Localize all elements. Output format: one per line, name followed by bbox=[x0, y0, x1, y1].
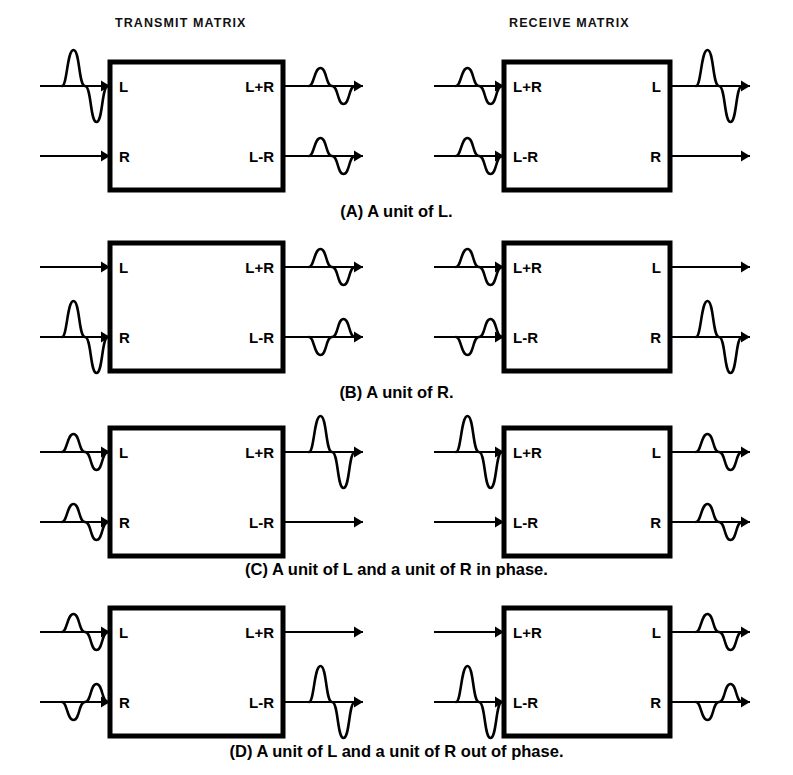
arrowhead-A-receive-output-r bbox=[741, 151, 750, 162]
port-label-receive-in-A-1: L-R bbox=[513, 148, 538, 165]
port-label-transmit-out-B-1: L-R bbox=[249, 329, 274, 346]
arrowhead-A-transmit-output-lminusr bbox=[354, 151, 363, 162]
port-label-transmit-out-B-0: L+R bbox=[245, 259, 274, 276]
port-label-transmit-in-D-1: R bbox=[119, 694, 130, 711]
arrowhead-C-transmit-output-lplusr bbox=[354, 447, 363, 458]
arrowhead-B-receive-output-r bbox=[741, 332, 750, 343]
port-label-transmit-out-C-0: L+R bbox=[245, 444, 274, 461]
port-label-transmit-out-A-0: L+R bbox=[245, 78, 274, 95]
port-label-transmit-in-C-0: L bbox=[119, 444, 128, 461]
arrowhead-B-receive-output-l bbox=[741, 262, 750, 273]
panel-caption-D: (D) A unit of L and a unit of R out of p… bbox=[0, 742, 793, 761]
port-label-transmit-out-D-1: L-R bbox=[249, 694, 274, 711]
arrowhead-B-transmit-output-lminusr bbox=[354, 332, 363, 343]
port-label-receive-out-C-0: L bbox=[652, 444, 661, 461]
port-label-receive-in-B-0: L+R bbox=[513, 259, 542, 276]
port-label-transmit-in-A-1: R bbox=[119, 148, 130, 165]
port-label-transmit-in-A-0: L bbox=[119, 78, 128, 95]
port-label-receive-out-D-1: R bbox=[650, 694, 661, 711]
arrowhead-D-transmit-output-lplusr bbox=[354, 627, 363, 638]
port-label-transmit-in-B-1: R bbox=[119, 329, 130, 346]
port-label-receive-in-C-1: L-R bbox=[513, 514, 538, 531]
port-label-transmit-out-C-1: L-R bbox=[249, 514, 274, 531]
arrowhead-D-receive-output-r bbox=[741, 697, 750, 708]
arrowhead-A-receive-output-l bbox=[741, 81, 750, 92]
arrowhead-D-receive-output-l bbox=[741, 627, 750, 638]
port-label-receive-in-C-0: L+R bbox=[513, 444, 542, 461]
panel-caption-A: (A) A unit of L. bbox=[0, 202, 793, 221]
column-header-receive-matrix: RECEIVE MATRIX bbox=[509, 16, 630, 30]
arrowhead-A-transmit-output-lplusr bbox=[354, 81, 363, 92]
arrowhead-C-receive-output-l bbox=[741, 447, 750, 458]
port-label-receive-in-B-1: L-R bbox=[513, 329, 538, 346]
arrowhead-C-receive-output-r bbox=[741, 517, 750, 528]
port-label-transmit-in-C-1: R bbox=[119, 514, 130, 531]
port-label-receive-out-B-0: L bbox=[652, 259, 661, 276]
port-label-transmit-out-D-0: L+R bbox=[245, 624, 274, 641]
port-label-receive-in-D-1: L-R bbox=[513, 694, 538, 711]
port-label-transmit-out-A-1: L-R bbox=[249, 148, 274, 165]
arrowhead-C-transmit-output-lminusr bbox=[354, 517, 363, 528]
port-label-receive-in-A-0: L+R bbox=[513, 78, 542, 95]
port-label-receive-out-A-0: L bbox=[652, 78, 661, 95]
port-label-receive-out-C-1: R bbox=[650, 514, 661, 531]
port-label-transmit-in-D-0: L bbox=[119, 624, 128, 641]
matrix-signal-flow-diagram: LL+RRL-RL+RLL-RRLL+RRL-RL+RLL-RRLL+RRL-R… bbox=[0, 0, 793, 775]
arrowhead-B-transmit-output-lplusr bbox=[354, 262, 363, 273]
column-header-transmit-matrix: TRANSMIT MATRIX bbox=[115, 16, 247, 30]
port-label-transmit-in-B-0: L bbox=[119, 259, 128, 276]
port-label-receive-out-A-1: R bbox=[650, 148, 661, 165]
panel-caption-C: (C) A unit of L and a unit of R in phase… bbox=[0, 560, 793, 579]
port-label-receive-out-B-1: R bbox=[650, 329, 661, 346]
panel-caption-B: (B) A unit of R. bbox=[0, 383, 793, 402]
port-label-receive-in-D-0: L+R bbox=[513, 624, 542, 641]
arrowhead-D-transmit-output-lminusr bbox=[354, 697, 363, 708]
port-label-receive-out-D-0: L bbox=[652, 624, 661, 641]
